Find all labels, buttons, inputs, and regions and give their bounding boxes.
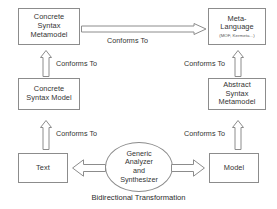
arrow-csmodel-to-csmetamodel <box>40 50 52 77</box>
arrow-analyzer-to-text <box>72 159 106 177</box>
node-concrete-syntax-model: Concrete Syntax Model <box>18 78 80 110</box>
edge-label-csm-to-metalanguage: Conforms To <box>107 36 148 45</box>
arrow-text-to-csmodel <box>40 120 52 150</box>
edge-label-asmetamodel-to-metalanguage: Conforms To <box>184 59 225 68</box>
node-concrete-syntax-model-label: Concrete Syntax Model <box>19 85 79 102</box>
node-model: Model <box>209 153 259 183</box>
node-abstract-syntax-metamodel: Abstract Syntax Metamodel <box>208 78 266 110</box>
diagram-canvas: Concrete Syntax Metamodel Meta- Language… <box>0 0 277 209</box>
node-generic-analyzer-synthesizer-label: Generic Analyzer and Synthesizer <box>106 150 172 185</box>
node-meta-language-sublabel: (MOF, Kermeta...) <box>219 33 255 38</box>
node-abstract-syntax-metamodel-label: Abstract Syntax Metamodel <box>209 81 265 107</box>
node-model-label: Model <box>210 164 258 173</box>
edge-label-text-to-csmodel: Conforms To <box>56 129 97 138</box>
arrow-analyzer-to-model <box>171 159 205 177</box>
node-text: Text <box>18 153 68 183</box>
node-meta-language: Meta- Language (MOF, Kermeta...) <box>208 8 266 45</box>
node-concrete-syntax-metamodel-label: Concrete Syntax Metamodel <box>19 13 79 39</box>
arrow-model-to-asmetamodel <box>232 120 244 150</box>
node-concrete-syntax-metamodel: Concrete Syntax Metamodel <box>18 8 80 45</box>
node-text-label: Text <box>19 164 67 173</box>
edge-label-csmodel-to-csmetamodel: Conforms To <box>56 59 97 68</box>
node-meta-language-label: Meta- Language <box>209 15 265 32</box>
edge-label-model-to-asmetamodel: Conforms To <box>184 129 225 138</box>
arrow-asmetamodel-to-metalanguage <box>232 50 244 77</box>
arrow-csm-to-metalanguage <box>81 23 207 35</box>
node-generic-analyzer-synthesizer: Generic Analyzer and Synthesizer <box>105 142 173 192</box>
diagram-caption: Bidirectional Transformation <box>0 193 277 202</box>
